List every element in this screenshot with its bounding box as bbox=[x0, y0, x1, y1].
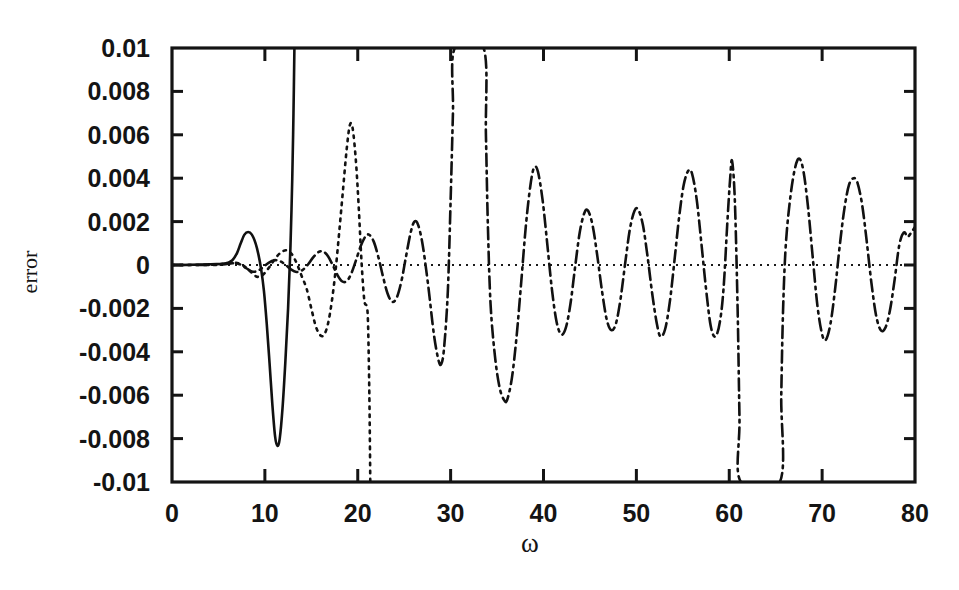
x-tick-label-20: 20 bbox=[344, 499, 372, 527]
y-axis-title: error bbox=[17, 250, 42, 293]
x-tick-label-40: 40 bbox=[530, 499, 558, 527]
y-tick-label--0.004: -0.004 bbox=[79, 338, 150, 366]
y-tick-label--0.002: -0.002 bbox=[79, 294, 150, 322]
y-tick-label--0.01: -0.01 bbox=[93, 468, 150, 496]
y-tick-label-0.008: 0.008 bbox=[87, 77, 150, 105]
chart-figure: 01020304050607080 -0.01-0.008-0.006-0.00… bbox=[0, 0, 959, 590]
y-tick-label-0.002: 0.002 bbox=[87, 208, 150, 236]
y-tick-label-0.006: 0.006 bbox=[87, 121, 150, 149]
x-tick-label-60: 60 bbox=[715, 499, 743, 527]
x-tick-label-10: 10 bbox=[251, 499, 279, 527]
y-tick-label-0.01: 0.01 bbox=[101, 34, 150, 62]
x-tick-label-70: 70 bbox=[808, 499, 836, 527]
y-tick-label--0.006: -0.006 bbox=[79, 381, 150, 409]
y-tick-label-0: 0 bbox=[136, 251, 150, 279]
x-tick-label-50: 50 bbox=[622, 499, 650, 527]
error-vs-omega-chart: 01020304050607080 -0.01-0.008-0.006-0.00… bbox=[0, 0, 959, 590]
x-tick-label-80: 80 bbox=[901, 499, 929, 527]
x-axis-title: ω bbox=[521, 528, 539, 558]
x-tick-label-30: 30 bbox=[437, 499, 465, 527]
y-tick-label-0.004: 0.004 bbox=[87, 164, 150, 192]
x-tick-label-0: 0 bbox=[165, 499, 179, 527]
y-tick-label--0.008: -0.008 bbox=[79, 425, 150, 453]
